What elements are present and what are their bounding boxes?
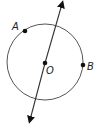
label-b: B [87,61,94,72]
diagram-canvas: A B O [0,0,97,126]
point-b [81,63,86,68]
point-a [23,29,28,34]
label-o: O [46,65,54,76]
label-a: A [11,21,19,32]
line-through-center [45,4,62,63]
line-through-center-lower [30,63,45,120]
